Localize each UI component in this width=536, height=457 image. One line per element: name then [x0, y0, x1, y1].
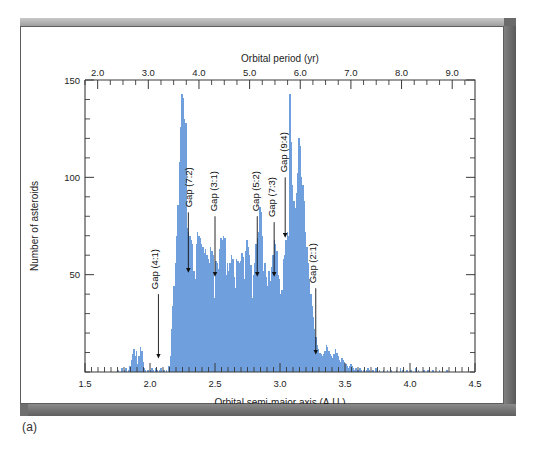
y-tick-label: 50: [69, 269, 80, 280]
top-tick-label: 6.0: [294, 67, 307, 78]
top-tick-label: 7.0: [344, 67, 357, 78]
top-tick-label: 5.0: [243, 67, 256, 78]
y-axis-left: 50100150: [64, 75, 94, 373]
y-axis-right: [466, 80, 475, 372]
histogram-bar: [160, 368, 162, 372]
x-tick-label: 3.0: [273, 378, 286, 389]
y-tick-label: 100: [64, 172, 80, 183]
top-tick-label: 9.0: [446, 67, 459, 78]
gap-label: Gap (3:1): [208, 171, 219, 211]
histogram-bar: [125, 368, 127, 372]
x-axis-title: Orbital semi-major axis (A.U.): [214, 397, 345, 404]
gap-annotation: Gap (9:4): [278, 132, 289, 236]
y-axis-title: Number of asteroids: [29, 181, 40, 271]
frame-3d-bottom-face: [28, 404, 516, 416]
gap-label: Gap (9:4): [278, 132, 289, 172]
x-tick-label: 4.0: [403, 378, 416, 389]
x-tick-label: 4.5: [468, 378, 481, 389]
top-tick-label: 2.0: [91, 67, 104, 78]
figure-panel: 1.52.02.53.03.54.04.5Orbital semi-major …: [0, 0, 536, 457]
chart-plot-area: 1.52.02.53.03.54.04.5Orbital semi-major …: [20, 26, 504, 404]
x-tick-label: 3.5: [338, 378, 351, 389]
gap-label: Gap (5:2): [250, 171, 261, 211]
frame-3d-right-face: [504, 26, 516, 416]
top-tick-label: 3.0: [142, 67, 155, 78]
histogram-bar: [400, 368, 402, 372]
histogram-bar: [121, 368, 123, 372]
asteroid-histogram: 1.52.02.53.03.54.04.5Orbital semi-major …: [20, 26, 504, 404]
top-tick-label: 4.0: [192, 67, 205, 78]
x-tick-label: 2.0: [143, 378, 156, 389]
y-tick-label: 150: [64, 75, 80, 86]
gap-label: Gap (2:1): [307, 243, 318, 283]
top-tick-label: 8.0: [395, 67, 408, 78]
top-axis-title: Orbital period (yr): [241, 53, 319, 64]
gap-label: Gap (4:1): [149, 249, 160, 289]
x-axis-top: 2.03.04.05.06.07.08.09.0: [85, 67, 465, 89]
gap-annotation: Gap (4:1): [149, 249, 160, 356]
gap-label: Gap (7:2): [183, 167, 194, 207]
gap-label: Gap (7:3): [266, 177, 277, 217]
figure-caption: (a): [22, 420, 37, 434]
x-tick-label: 1.5: [78, 378, 91, 389]
x-tick-label: 2.5: [208, 378, 221, 389]
